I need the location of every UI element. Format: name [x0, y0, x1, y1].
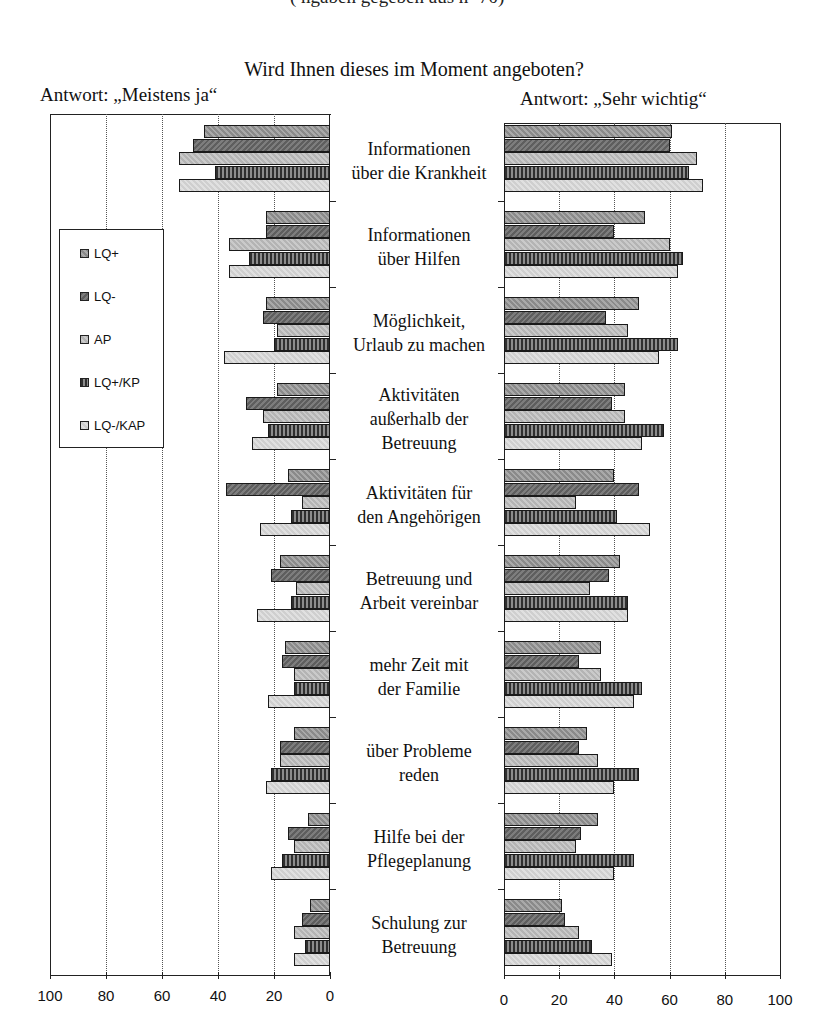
- bar-left: [288, 469, 330, 482]
- left-x-tick: [218, 972, 219, 979]
- bar-right: [504, 324, 628, 337]
- bar-right: [504, 582, 590, 595]
- bar-left: [296, 582, 330, 595]
- bar-right: [504, 351, 659, 364]
- bar-left: [266, 211, 330, 224]
- bar-left: [274, 338, 330, 351]
- left-x-tick-label: 0: [310, 987, 350, 1004]
- left-x-tick: [330, 972, 331, 979]
- bar-left: [288, 827, 330, 840]
- bar-left: [285, 641, 330, 654]
- bar-right: [504, 338, 678, 351]
- bar-left: [302, 913, 330, 926]
- category-label: Schulung zurBetreuung: [335, 911, 503, 959]
- bar-left: [268, 424, 330, 437]
- legend-swatch-icon: [80, 335, 89, 344]
- right-gridline: [670, 123, 671, 975]
- bar-left: [271, 768, 330, 781]
- bar-left: [282, 854, 330, 867]
- bar-left: [257, 609, 330, 622]
- left-x-tick-label: 80: [86, 987, 126, 1004]
- left-category-tick: [330, 889, 336, 890]
- category-label-line: den Angehörigen: [335, 505, 503, 529]
- bar-right: [504, 953, 612, 966]
- bar-left: [282, 655, 330, 668]
- category-label: Aktivitätenaußerhalb derBetreuung: [335, 383, 503, 455]
- category-label-line: Aktivitäten für: [335, 481, 503, 505]
- legend-item-ap: AP: [80, 332, 111, 347]
- category-label-line: über die Krankheit: [335, 161, 503, 185]
- category-label-line: Betreuung: [335, 431, 503, 455]
- bar-left: [294, 926, 330, 939]
- legend-swatch-icon: [80, 378, 89, 387]
- bar-left: [305, 940, 330, 953]
- category-label: Informationenüber die Krankheit: [335, 137, 503, 185]
- category-label-line: Informationen: [335, 137, 503, 161]
- category-label: Hilfe bei derPflegeplanung: [335, 825, 503, 873]
- bar-right: [504, 741, 579, 754]
- bar-left: [252, 437, 330, 450]
- bar-right: [504, 754, 598, 767]
- right-x-tick-label: 60: [650, 991, 690, 1008]
- bar-right: [504, 768, 639, 781]
- bar-right: [504, 655, 579, 668]
- bar-right: [504, 813, 598, 826]
- category-label: über Problemereden: [335, 739, 503, 787]
- right-category-tick: [498, 201, 504, 202]
- right-chart-title: Antwort: „Sehr wichtig“: [520, 88, 707, 110]
- left-x-tick: [274, 972, 275, 979]
- cutoff-header-line: ( ngaben gegeben aus n=70): [290, 0, 504, 8]
- bar-right: [504, 867, 614, 880]
- category-label-line: Betreuung und: [335, 567, 503, 591]
- left-category-tick: [330, 631, 336, 632]
- bar-left: [266, 781, 330, 794]
- bar-left: [229, 238, 330, 251]
- legend-swatch-icon: [80, 249, 89, 258]
- bar-right: [504, 496, 576, 509]
- right-x-tick: [504, 972, 505, 979]
- right-x-tick-label: 100: [760, 991, 800, 1008]
- left-category-tick: [330, 201, 336, 202]
- legend-label: LQ-: [94, 289, 116, 304]
- right-category-tick: [498, 717, 504, 718]
- bar-left: [277, 383, 330, 396]
- right-x-tick: [614, 972, 615, 979]
- bar-right: [504, 238, 670, 251]
- bar-right: [504, 926, 579, 939]
- right-x-tick-label: 80: [705, 991, 745, 1008]
- legend-item-lq-plus: LQ+: [80, 246, 119, 261]
- category-label-line: außerhalb der: [335, 407, 503, 431]
- bar-right: [504, 840, 576, 853]
- bar-left: [224, 351, 330, 364]
- bar-right: [504, 252, 683, 265]
- bar-left: [271, 867, 330, 880]
- category-label: Möglichkeit,Urlaub zu machen: [335, 309, 503, 357]
- bar-right: [504, 297, 639, 310]
- bar-right: [504, 510, 617, 523]
- bar-right: [504, 225, 614, 238]
- category-label-line: Aktivitäten: [335, 383, 503, 407]
- bar-left: [291, 510, 330, 523]
- category-label-line: Arbeit vereinbar: [335, 591, 503, 615]
- bar-right: [504, 437, 642, 450]
- right-x-tick: [670, 972, 671, 979]
- bar-left: [294, 682, 330, 695]
- bar-left: [263, 311, 330, 324]
- legend-label: LQ+/KP: [94, 375, 140, 390]
- legend-swatch-icon: [80, 292, 89, 301]
- left-x-tick-label: 100: [30, 987, 70, 1004]
- bar-right: [504, 152, 697, 165]
- bar-left: [268, 695, 330, 708]
- bar-left: [179, 152, 330, 165]
- left-x-axis: [50, 975, 331, 976]
- bar-right: [504, 311, 606, 324]
- bar-left: [302, 496, 330, 509]
- bar-right: [504, 940, 592, 953]
- bar-right: [504, 913, 565, 926]
- right-category-tick: [498, 631, 504, 632]
- right-x-axis: [504, 975, 781, 976]
- bar-right: [504, 424, 664, 437]
- left-category-tick: [330, 803, 336, 804]
- category-label-line: reden: [335, 763, 503, 787]
- category-label-line: mehr Zeit mit: [335, 653, 503, 677]
